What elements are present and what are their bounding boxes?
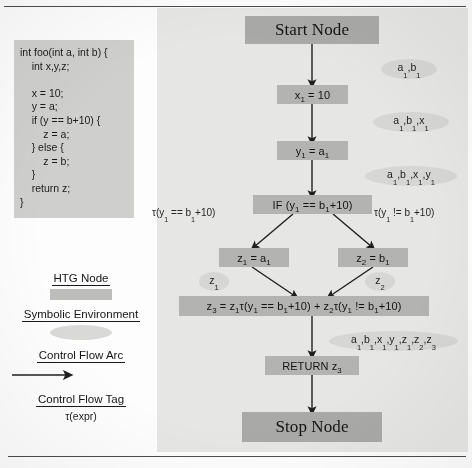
node-return-label: RETURN z3	[282, 360, 342, 372]
node-assign-y[interactable]: y1 = a1	[277, 141, 348, 160]
bottom-rule	[8, 456, 466, 457]
env-after-assign-x: a1,b1,x1	[373, 112, 449, 132]
node-merge-label: z3 = z1τ(y1 == b1+10) + z2τ(y1 != b1+10)	[207, 300, 402, 312]
env-then: z1	[199, 272, 229, 291]
node-else-assign-label: z2 = b1	[356, 252, 390, 264]
tag-false-branch: τ(y1 != b1+10)	[374, 207, 434, 221]
source-code-listing: int foo(int a, int b) { int x,y,z; x = 1…	[14, 40, 134, 218]
top-rule	[4, 6, 466, 7]
env-after-assign-y: a1,b1,x1,y1	[365, 166, 457, 186]
env-final-label: a1,b1,x1,y1,z1,z2,z3	[351, 333, 436, 348]
env-else-label: z2	[375, 274, 384, 289]
env-final: a1,b1,x1,y1,z1,z2,z3	[329, 331, 458, 351]
node-stop-label: Stop Node	[275, 417, 348, 437]
control-flow-tag-example: τ(expr)	[8, 410, 154, 422]
env-after-assign-x-label: a1,b1,x1	[393, 114, 428, 129]
node-start[interactable]: Start Node	[245, 16, 379, 44]
node-if-label: IF (y1 == b1+10)	[273, 199, 353, 211]
legend-item-htg-node: HTG Node	[8, 268, 154, 286]
legend-item-htg-node-label: HTG Node	[52, 272, 111, 286]
node-assign-x-label: x1 = 10	[295, 89, 330, 101]
figure-page: int foo(int a, int b) { int x,y,z; x = 1…	[0, 0, 472, 468]
control-flow-arc-swatch	[8, 369, 80, 381]
env-after-assign-y-label: a1,b1,x1,y1	[387, 168, 435, 183]
legend-item-control-flow-arc-label: Control Flow Arc	[37, 349, 125, 363]
legend-item-symbolic-environment-label: Symbolic Environment	[22, 308, 140, 322]
node-return[interactable]: RETURN z3	[265, 356, 359, 375]
node-stop[interactable]: Stop Node	[242, 412, 382, 442]
legend-item-control-flow-arc: Control Flow Arc	[8, 345, 154, 363]
legend-item-control-flow-tag: Control Flow Tag	[8, 389, 154, 407]
htg-node-swatch	[50, 289, 112, 300]
env-else: z2	[365, 272, 395, 291]
node-start-label: Start Node	[275, 20, 349, 40]
env-then-label: z1	[209, 274, 218, 289]
node-then-assign[interactable]: z1 = a1	[219, 248, 289, 267]
legend-item-symbolic-environment: Symbolic Environment	[8, 304, 154, 322]
tag-true-branch-label: τ(y1 == b1+10)	[152, 207, 215, 218]
node-assign-y-label: y1 = a1	[296, 145, 330, 157]
tag-false-branch-label: τ(y1 != b1+10)	[374, 207, 434, 218]
node-assign-x[interactable]: x1 = 10	[277, 85, 348, 104]
legend-item-control-flow-tag-label: Control Flow Tag	[36, 393, 126, 407]
node-else-assign[interactable]: z2 = b1	[338, 248, 408, 267]
node-merge[interactable]: z3 = z1τ(y1 == b1+10) + z2τ(y1 != b1+10)	[179, 296, 429, 316]
legend: HTG Node Symbolic Environment Control Fl…	[8, 268, 154, 422]
node-if[interactable]: IF (y1 == b1+10)	[253, 195, 372, 214]
env-after-start-label: a1,b1	[397, 61, 420, 76]
env-after-start: a1,b1	[381, 59, 437, 79]
tag-true-branch: τ(y1 == b1+10)	[152, 207, 215, 221]
symbolic-environment-swatch	[50, 325, 112, 340]
node-then-assign-label: z1 = a1	[237, 252, 271, 264]
